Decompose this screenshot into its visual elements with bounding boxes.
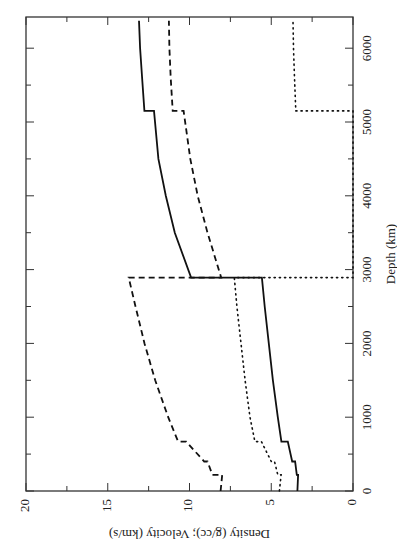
plot-frame [26,17,353,491]
depth-tick-label: 1000 [359,404,374,430]
depth-axis: 0100020003000400050006000 [26,35,374,494]
value-tick-label: 15 [99,499,114,512]
depth-tick-label: 2000 [359,330,374,356]
value-axis-title: Density (g/cc); Velocity (km/s) [109,527,270,542]
value-tick-label: 0 [344,499,359,506]
value-tick-label: 10 [180,499,195,512]
depth-tick-label: 4000 [359,183,374,209]
value-tick-label: 20 [17,499,32,512]
data-series [129,21,353,491]
chart-canvas: 0100020003000400050006000 05101520 Depth… [0,0,397,552]
depth-tick-label: 6000 [359,35,374,61]
series-density [139,21,298,491]
series-s-wave-velocity [234,21,353,491]
depth-tick-label: 3000 [359,257,374,283]
value-tick-label: 5 [262,499,277,506]
depth-tick-label: 0 [359,488,374,495]
value-axis: 05101520 [17,17,359,512]
depth-axis-title: Depth (km) [383,224,397,284]
depth-tick-label: 5000 [359,109,374,135]
